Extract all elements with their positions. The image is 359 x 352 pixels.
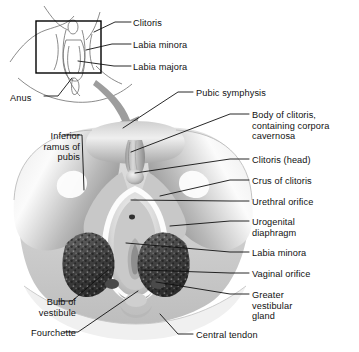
label-fourchette: Fourchette: [14, 328, 76, 339]
label-vaginal-orifice: Vaginal orifice: [252, 269, 311, 280]
label-labia-majora: Labia majora: [133, 62, 187, 73]
label-urethral-orifice: Urethral orifice: [252, 197, 313, 208]
label-central-tendon: Central tendon: [196, 330, 258, 341]
label-labia-minora: Labia minora: [133, 40, 187, 51]
label-labia-minora-main: Labia minora: [252, 248, 306, 259]
leader-clitoris: [94, 22, 131, 32]
label-clitoris: Clitoris: [133, 18, 162, 29]
leader-labia-minora: [86, 44, 131, 50]
label-bulb-of-vestibule: Bulb of vestibule: [14, 297, 76, 318]
label-crus-of-clitoris: Crus of clitoris: [252, 176, 312, 187]
label-pubic-symphysis: Pubic symphysis: [196, 88, 266, 99]
label-urogenital-diaphragm: Urogenital diaphragm: [252, 217, 296, 238]
label-greater-vestibular-gland: Greater vestibular gland: [252, 290, 292, 322]
label-anus: Anus: [10, 93, 31, 104]
leader-labia-majora: [78, 61, 131, 66]
label-body-of-clitoris: Body of clitoris, containing corpora cav…: [252, 110, 329, 142]
label-inferior-ramus-of-pubis: Inferior ramus of pubis: [18, 131, 80, 163]
anatomy-figure-page: ClitorisLabia minoraLabia majoraAnusPubi…: [0, 0, 359, 352]
label-clitoris-head: Clitoris (head): [252, 155, 311, 166]
leader-anus: [44, 78, 72, 96]
